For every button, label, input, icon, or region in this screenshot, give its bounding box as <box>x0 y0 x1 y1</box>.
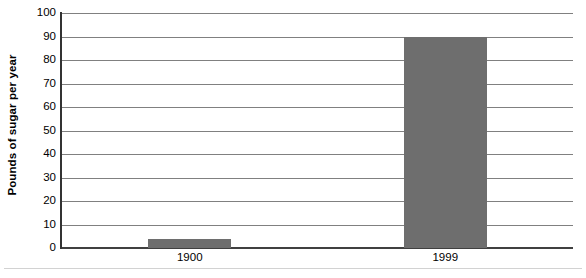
bar-chart-figure: Pounds of sugar per year 010203040506070… <box>0 0 586 278</box>
y-tick-label: 40 <box>20 148 56 160</box>
x-tick-label: 1999 <box>405 250 485 265</box>
y-tick-label: 10 <box>20 219 56 231</box>
y-tick-label: 30 <box>20 172 56 184</box>
y-tick-label: 20 <box>20 195 56 207</box>
gridline <box>62 225 573 226</box>
bottom-divider <box>4 268 582 269</box>
gridline <box>62 154 573 155</box>
y-tick-label: 100 <box>20 7 56 19</box>
gridline <box>62 60 573 61</box>
y-axis-tick-labels: 0102030405060708090100 <box>16 13 56 248</box>
axis-baseline <box>62 247 573 249</box>
y-tick-label: 60 <box>20 101 56 113</box>
x-axis-tick-labels: 19001999 <box>62 250 573 268</box>
y-tick-label: 70 <box>20 78 56 90</box>
gridline <box>62 107 573 108</box>
gridline <box>62 13 573 14</box>
gridline <box>62 37 573 38</box>
bar <box>404 37 487 249</box>
y-tick-label: 50 <box>20 125 56 137</box>
bar <box>148 239 231 248</box>
gridline <box>62 131 573 132</box>
plot-area <box>62 13 573 248</box>
gridline <box>62 201 573 202</box>
y-tick-label: 80 <box>20 54 56 66</box>
x-tick-label: 1900 <box>150 250 230 265</box>
gridline <box>62 84 573 85</box>
gridline <box>62 178 573 179</box>
y-tick-label: 0 <box>20 242 56 254</box>
y-tick-label: 90 <box>20 31 56 43</box>
